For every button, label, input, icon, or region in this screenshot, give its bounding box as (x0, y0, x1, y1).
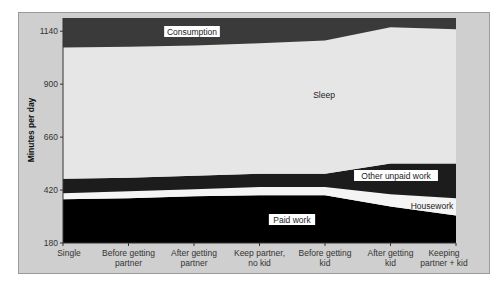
x-tick-label: partner (115, 258, 142, 268)
x-tick-label: kid (385, 258, 396, 268)
band-label-sleep: Sleep (313, 90, 335, 100)
x-tick-label: Keeping (428, 248, 459, 258)
band-sleep (63, 27, 456, 179)
x-tick-label: no kid (248, 258, 271, 268)
x-tick-label: partner (181, 258, 208, 268)
band-label-housework: Housework (411, 201, 454, 211)
band-label-consumption: Consumption (167, 27, 217, 37)
band-label-paid-work: Paid work (273, 215, 311, 225)
y-tick-label: 1140 (40, 26, 59, 36)
x-tick-label: Single (57, 248, 81, 258)
x-tick-label: kid (320, 258, 331, 268)
x-tick-label: After getting (171, 248, 217, 258)
y-tick-label: 420 (44, 185, 58, 195)
y-tick-label: 660 (44, 132, 58, 142)
stacked-area-chart: 1804206609001140SingleBefore gettingpart… (0, 0, 496, 285)
x-tick-label: partner + kid (420, 258, 468, 268)
y-axis-title: Minutes per day (26, 97, 36, 162)
x-tick-label: Before getting (299, 248, 352, 258)
area-bands (63, 18, 456, 243)
x-tick-label: Keep partner, (234, 248, 285, 258)
x-tick-label: Before getting (102, 248, 155, 258)
x-tick-label: After getting (368, 248, 414, 258)
y-tick-label: 180 (44, 238, 58, 248)
band-label-other-unpaid-work: Other unpaid work (361, 171, 431, 181)
y-tick-label: 900 (44, 79, 58, 89)
